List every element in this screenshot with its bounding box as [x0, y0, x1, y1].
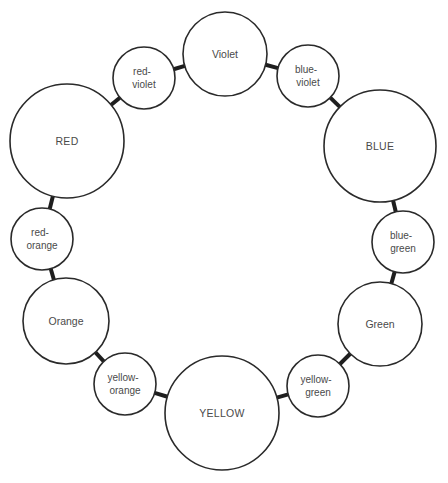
node-blue: BLUE	[324, 90, 436, 202]
link-blue-green-green	[391, 271, 395, 285]
label-orange: Orange	[48, 315, 83, 327]
link-red-red-violet	[110, 97, 120, 106]
label-red-orange: red-	[31, 227, 49, 238]
node-blue-green: blue-green	[372, 211, 434, 273]
color-wheel-diagram: Violetblue-violetBLUEblue-greenGreenyell…	[0, 0, 448, 483]
link-red-orange-red	[49, 195, 53, 210]
label-red-violet: red-	[133, 66, 151, 77]
label-yellow-green: yellow-	[300, 374, 331, 385]
link-orange-red-orange	[50, 268, 54, 281]
label-blue-violet: blue-	[295, 64, 317, 75]
label-yellow-orange: yellow-	[107, 372, 138, 383]
node-red: RED	[10, 84, 124, 198]
circle-yellow-green	[287, 355, 349, 417]
label-red-orange-line2: orange	[26, 240, 58, 251]
node-orange: Orange	[23, 278, 109, 364]
link-blue-violet-blue	[330, 97, 341, 108]
link-green-yellow-green	[339, 353, 351, 365]
label-green: Green	[365, 318, 394, 330]
link-yellow-orange-orange	[95, 352, 105, 362]
circle-yellow-orange	[94, 353, 156, 415]
label-blue-green: blue-	[390, 230, 412, 241]
link-yellow-yellow-orange	[154, 393, 169, 397]
node-red-violet: red-violet	[113, 47, 175, 109]
label-yellow: YELLOW	[199, 407, 245, 419]
label-violet: Violet	[212, 48, 238, 60]
node-yellow: YELLOW	[165, 356, 279, 470]
link-blue-blue-green	[393, 199, 396, 212]
label-yellow-orange-line2: orange	[109, 385, 141, 396]
label-red-violet-line2: violet	[132, 79, 156, 90]
node-yellow-orange: yellow-orange	[94, 353, 156, 415]
circle-red-violet	[113, 47, 175, 109]
link-yellow-green-yellow	[276, 394, 289, 398]
color-nodes: Violetblue-violetBLUEblue-greenGreenyell…	[10, 12, 436, 470]
node-yellow-green: yellow-green	[287, 355, 349, 417]
label-yellow-green-line2: green	[305, 387, 331, 398]
label-red: RED	[55, 135, 78, 147]
circle-blue-violet	[277, 45, 339, 107]
node-red-orange: red-orange	[11, 208, 73, 270]
link-red-violet-violet	[173, 66, 186, 70]
circle-red-orange	[11, 208, 73, 270]
link-violet-blue-violet	[265, 65, 279, 69]
label-blue: BLUE	[366, 140, 395, 152]
label-blue-green-line2: green	[390, 243, 416, 254]
node-blue-violet: blue-violet	[277, 45, 339, 107]
node-green: Green	[338, 282, 422, 366]
label-blue-violet-line2: violet	[296, 77, 320, 88]
node-violet: Violet	[183, 12, 267, 96]
circle-blue-green	[372, 211, 434, 273]
